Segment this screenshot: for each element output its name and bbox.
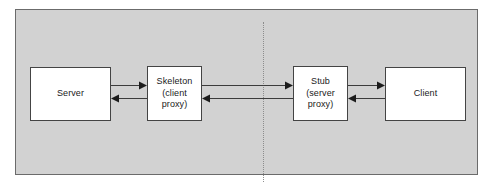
node-stub[interactable]: Stub (server proxy) [293,66,348,121]
arrow-stub-to-client [348,82,385,90]
node-client-label: Client [412,88,440,100]
node-server[interactable]: Server [30,67,111,121]
rpc-architecture-diagram: Server Skeleton (client proxy) Stub (ser… [0,0,494,186]
arrow-stub-to-skeleton [202,95,293,103]
node-skeleton-label: Skeleton (client proxy) [155,76,195,111]
arrow-server-to-skeleton [111,82,147,90]
arrow-skeleton-to-server [111,95,147,103]
arrow-client-to-stub [348,95,385,103]
node-stub-label: Stub (server proxy) [304,76,337,111]
node-skeleton[interactable]: Skeleton (client proxy) [147,66,202,121]
node-server-label: Server [55,88,86,100]
node-client[interactable]: Client [385,67,466,121]
arrow-skeleton-to-stub [202,82,293,90]
